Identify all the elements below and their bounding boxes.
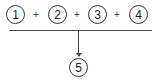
node-label: 3 <box>94 8 101 22</box>
node-label: 2 <box>54 8 61 22</box>
sum-bar <box>9 30 152 31</box>
plus-operator: + <box>33 9 39 20</box>
arrow-down-icon <box>76 53 82 57</box>
input-node-3: 3 <box>88 5 107 24</box>
plus-operator: + <box>74 9 80 20</box>
node-label: 1 <box>12 8 19 22</box>
input-node-2: 2 <box>48 5 67 24</box>
node-label: 4 <box>135 8 142 22</box>
input-node-1: 1 <box>6 5 25 24</box>
input-node-4: 4 <box>129 5 148 24</box>
result-connector <box>78 31 79 55</box>
plus-operator: + <box>114 9 120 20</box>
node-label: 5 <box>75 61 82 75</box>
output-node-5: 5 <box>69 58 88 77</box>
